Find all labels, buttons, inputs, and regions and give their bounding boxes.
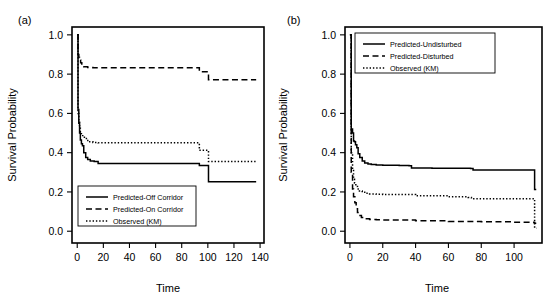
curve-dashed bbox=[77, 35, 256, 80]
x-tick-label: 120 bbox=[225, 251, 243, 263]
legend-label: Predicted-Disturbed bbox=[390, 52, 454, 61]
y-tick-label: 0.4 bbox=[48, 146, 63, 158]
panel-b-legend: Predicted-UndisturbedPredicted-Disturbed… bbox=[355, 33, 495, 73]
curve-dotted bbox=[77, 35, 256, 162]
y-tick-label: 0.8 bbox=[321, 68, 336, 80]
y-tick-label: 0.4 bbox=[321, 146, 336, 158]
x-tick-label: 80 bbox=[475, 251, 487, 263]
panel-b-plot: (b) 0204060801000.00.20.40.60.81.0 Predi… bbox=[277, 0, 557, 302]
x-tick-label: 0 bbox=[74, 251, 80, 263]
y-tick-label: 0.0 bbox=[321, 225, 336, 237]
panel-a-ylabel: Survival Probability bbox=[6, 88, 18, 182]
panel-a-plot: (a) 0204060801001201400.00.20.40.60.81.0… bbox=[0, 0, 280, 302]
panel-b: (b) 0204060801000.00.20.40.60.81.0 Predi… bbox=[277, 0, 557, 302]
x-tick-label: 100 bbox=[505, 251, 523, 263]
panel-b-tag: (b) bbox=[287, 14, 300, 26]
x-tick-label: 60 bbox=[150, 251, 162, 263]
panel-a-legend: Predicted-Off CorridorPredicted-On Corri… bbox=[78, 186, 196, 226]
y-tick-label: 0.2 bbox=[321, 186, 336, 198]
survival-probability-figure: (a) 0204060801001201400.00.20.40.60.81.0… bbox=[0, 0, 557, 302]
x-tick-label: 0 bbox=[347, 251, 353, 263]
y-tick-label: 1.0 bbox=[48, 29, 63, 41]
panel-a: (a) 0204060801001201400.00.20.40.60.81.0… bbox=[0, 0, 280, 302]
legend-label: Predicted-Undisturbed bbox=[390, 40, 462, 49]
y-tick-label: 0.2 bbox=[48, 186, 63, 198]
x-tick-label: 40 bbox=[410, 251, 422, 263]
y-tick-label: 0.6 bbox=[48, 107, 63, 119]
legend-label: Predicted-Off Corridor bbox=[113, 193, 184, 202]
panel-b-xlabel: Time bbox=[425, 282, 449, 294]
curve-solid bbox=[77, 35, 256, 182]
x-tick-label: 20 bbox=[377, 251, 389, 263]
x-tick-label: 100 bbox=[199, 251, 217, 263]
y-tick-label: 0.0 bbox=[48, 225, 63, 237]
y-tick-label: 0.6 bbox=[321, 107, 336, 119]
legend-label: Observed (KM) bbox=[113, 217, 162, 226]
panel-a-tag: (a) bbox=[18, 14, 31, 26]
x-tick-label: 20 bbox=[98, 251, 110, 263]
legend-label: Predicted-On Corridor bbox=[113, 205, 184, 214]
y-tick-label: 1.0 bbox=[321, 29, 336, 41]
y-tick-label: 0.8 bbox=[48, 68, 63, 80]
panel-a-curves bbox=[77, 35, 256, 182]
panel-a-xlabel: Time bbox=[156, 282, 180, 294]
x-tick-label: 60 bbox=[443, 251, 455, 263]
panel-b-ylabel: Survival Probability bbox=[277, 88, 289, 182]
x-tick-label: 40 bbox=[124, 251, 136, 263]
x-tick-label: 140 bbox=[251, 251, 269, 263]
legend-label: Observed (KM) bbox=[390, 64, 439, 73]
x-tick-label: 80 bbox=[176, 251, 188, 263]
